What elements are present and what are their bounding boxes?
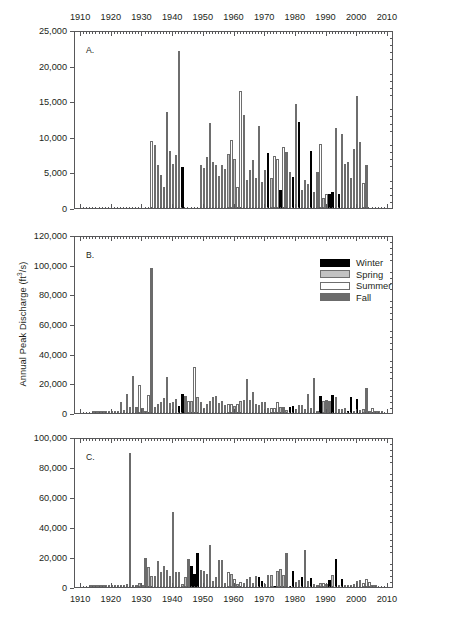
x-minor-tick	[178, 31, 179, 34]
x-minor-tick	[276, 412, 277, 415]
x-minor-tick	[145, 586, 146, 589]
x-minor-tick	[169, 236, 170, 239]
x-minor-tick	[145, 31, 146, 34]
x-minor-tick	[86, 236, 87, 239]
x-minor-tick	[86, 31, 87, 34]
x-minor-tick	[181, 31, 182, 34]
panel-c-label: C.	[86, 452, 95, 462]
x-minor-tick	[151, 438, 152, 441]
x-minor-tick	[227, 586, 228, 589]
x-minor-tick	[347, 438, 348, 441]
x-minor-tick	[258, 412, 259, 415]
x-minor-tick	[267, 236, 268, 239]
x-minor-tick	[329, 438, 330, 441]
x-minor-tick	[276, 438, 277, 441]
legend-label-winter: Winter	[356, 257, 383, 268]
x-minor-tick	[212, 236, 213, 239]
x-minor-tick	[362, 31, 363, 34]
x-minor-tick	[206, 31, 207, 34]
x-minor-tick	[197, 31, 198, 34]
x-minor-tick	[129, 236, 130, 239]
y-minor-tick	[390, 283, 393, 284]
x-minor-tick	[344, 31, 345, 34]
x-minor-tick	[237, 236, 238, 239]
x-minor-tick	[209, 236, 210, 239]
x-minor-tick	[230, 207, 231, 210]
x-minor-tick	[181, 586, 182, 589]
x-minor-tick	[215, 438, 216, 441]
bar	[160, 175, 162, 208]
bar	[212, 162, 214, 208]
x-minor-tick	[338, 438, 339, 441]
y-axis-label-exponent: 3	[16, 272, 23, 276]
x-tick-label: 1920	[101, 594, 121, 604]
x-minor-tick	[365, 586, 366, 589]
x-minor-tick	[362, 236, 363, 239]
x-minor-tick	[135, 236, 136, 239]
bar	[335, 128, 337, 208]
x-minor-tick	[92, 586, 93, 589]
x-minor-tick	[160, 412, 161, 415]
x-minor-tick	[230, 412, 231, 415]
x-minor-tick	[114, 438, 115, 441]
y-minor-tick	[390, 124, 393, 125]
x-major-tick	[326, 236, 327, 241]
x-minor-tick	[246, 207, 247, 210]
x-minor-tick	[212, 207, 213, 210]
x-minor-tick	[163, 207, 164, 210]
x-minor-tick	[151, 412, 152, 415]
x-minor-tick	[215, 207, 216, 210]
x-major-tick	[80, 236, 81, 241]
x-minor-tick	[301, 207, 302, 210]
x-major-tick	[356, 583, 357, 588]
x-minor-tick	[227, 438, 228, 441]
x-minor-tick	[329, 236, 330, 239]
x-minor-tick	[197, 586, 198, 589]
bar	[365, 388, 367, 414]
bar	[298, 122, 300, 208]
bar	[227, 154, 229, 208]
y-minor-tick	[390, 131, 393, 132]
x-minor-tick	[154, 236, 155, 239]
bar	[166, 377, 168, 413]
x-minor-tick	[227, 412, 228, 415]
x-minor-tick	[224, 438, 225, 441]
y-minor-tick	[390, 278, 393, 279]
y-minor-tick	[390, 372, 393, 373]
bar	[218, 560, 220, 587]
x-minor-tick	[365, 438, 366, 441]
x-minor-tick	[218, 236, 219, 239]
bar	[147, 395, 149, 413]
x-minor-tick	[378, 31, 379, 34]
x-minor-tick	[335, 236, 336, 239]
x-minor-tick	[381, 412, 382, 415]
x-minor-tick	[353, 236, 354, 239]
x-minor-tick	[145, 236, 146, 239]
x-minor-tick	[99, 236, 100, 239]
x-tick-label: 1950	[193, 12, 213, 22]
bar	[267, 153, 269, 208]
x-minor-tick	[200, 31, 201, 34]
x-minor-tick	[280, 31, 281, 34]
x-minor-tick	[148, 586, 149, 589]
y-minor-tick	[390, 181, 393, 182]
x-minor-tick	[163, 412, 164, 415]
y-minor-tick	[390, 540, 393, 541]
x-major-tick	[80, 438, 81, 443]
x-minor-tick	[258, 586, 259, 589]
x-minor-tick	[307, 412, 308, 415]
x-minor-tick	[206, 586, 207, 589]
x-minor-tick	[368, 31, 369, 34]
x-minor-tick	[255, 207, 256, 210]
x-minor-tick	[218, 586, 219, 589]
x-major-tick	[141, 31, 142, 36]
x-minor-tick	[365, 412, 366, 415]
x-minor-tick	[310, 412, 311, 415]
x-minor-tick	[359, 31, 360, 34]
x-minor-tick	[276, 31, 277, 34]
x-minor-tick	[240, 412, 241, 415]
x-minor-tick	[350, 31, 351, 34]
x-tick-label: 2010	[377, 594, 397, 604]
x-minor-tick	[246, 438, 247, 441]
x-minor-tick	[194, 438, 195, 441]
